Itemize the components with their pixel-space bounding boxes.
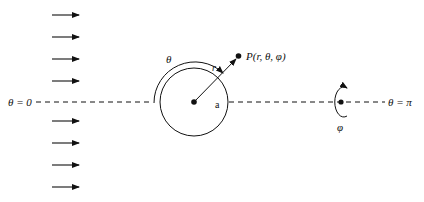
downstream-axis-dot <box>338 99 343 104</box>
diagram-canvas <box>0 0 424 202</box>
label-point-p: P(r, θ, φ) <box>246 51 286 62</box>
label-a: a <box>215 100 219 110</box>
label-theta-pi: θ = π <box>388 97 412 108</box>
point-p-dot <box>236 53 242 59</box>
label-theta: θ <box>166 54 171 65</box>
label-r: r <box>212 63 216 73</box>
label-phi: φ <box>337 122 343 133</box>
uniform-flow-arrows <box>52 15 79 187</box>
label-theta-zero: θ = 0 <box>8 97 32 108</box>
